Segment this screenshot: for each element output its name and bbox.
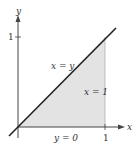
region-diagram: y x 1 1 x = y x = 1 y = 0 (0, 0, 138, 148)
x-axis-label: x (127, 122, 132, 132)
y-axis-label: y (15, 6, 22, 16)
label-y-equals-0: y = 0 (53, 133, 78, 143)
label-x-equals-y: x = y (51, 61, 75, 71)
y-axis-arrow-icon (16, 15, 21, 22)
label-x-equals-1: x = 1 (84, 87, 108, 97)
x-axis-arrow-icon (118, 125, 125, 130)
y-tick-label: 1 (8, 32, 14, 42)
x-tick-label: 1 (103, 133, 109, 143)
